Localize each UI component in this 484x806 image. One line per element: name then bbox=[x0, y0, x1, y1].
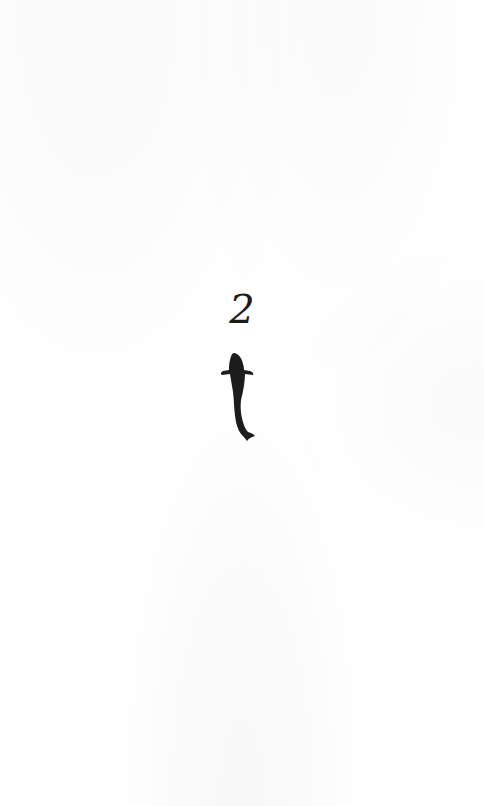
koi-fish-icon bbox=[210, 350, 260, 445]
book-page: 2 bbox=[0, 0, 484, 806]
chapter-number: 2 bbox=[0, 285, 484, 333]
